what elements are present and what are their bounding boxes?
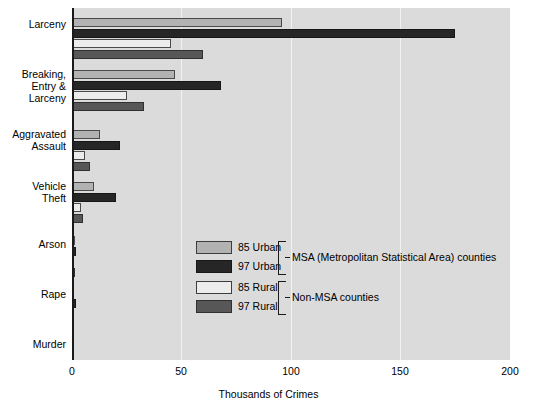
legend-swatch-85-rural (196, 281, 232, 294)
category-label-vehicle-theft: Vehicle Theft (0, 180, 66, 204)
bar (72, 182, 94, 191)
brace-msa-tick (285, 257, 290, 258)
legend-swatch-97-urban (196, 260, 232, 273)
bar-chart: Larceny Breaking, Entry & Larceny Aggrav… (0, 0, 537, 411)
y-axis-line (72, 8, 74, 360)
bar (72, 193, 116, 202)
category-label-line: Arson (0, 238, 66, 250)
x-axis-title: Thousands of Crimes (0, 388, 537, 400)
bar (72, 29, 455, 38)
category-label-aggravated-assault: Aggravated Assault (0, 128, 66, 152)
gridline-50 (181, 8, 182, 360)
legend: 85 Urban 97 Urban 85 Rural 97 Rural MSA … (196, 240, 516, 320)
category-label-line: Rape (0, 288, 66, 300)
category-label-line: Entry & (0, 80, 66, 92)
xtick-0: 0 (52, 365, 92, 377)
xtick-100: 100 (271, 365, 311, 377)
bar (72, 70, 175, 79)
category-label-arson: Arson (0, 238, 66, 250)
xtick-200: 200 (490, 365, 530, 377)
bar (72, 162, 90, 171)
legend-swatch-97-rural (196, 300, 232, 313)
bar (72, 102, 144, 111)
category-label-line: Vehicle (0, 180, 66, 192)
legend-group-label-msa: MSA (Metropolitan Statistical Area) coun… (292, 251, 496, 263)
category-label-line: Assault (0, 140, 66, 152)
legend-group-label-non-msa: Non-MSA counties (292, 291, 379, 303)
legend-label-97-urban: 97 Urban (238, 260, 281, 272)
category-label-line: Larceny (0, 92, 66, 104)
category-label-line: Larceny (0, 18, 66, 30)
bar (72, 39, 171, 48)
brace-non-msa-tick (285, 297, 290, 298)
xtick-150: 150 (380, 365, 420, 377)
bar (72, 18, 282, 27)
bar (72, 50, 203, 59)
legend-swatch-85-urban (196, 241, 232, 254)
category-label-line: Theft (0, 192, 66, 204)
category-label-line: Murder (0, 338, 66, 350)
category-label-murder: Murder (0, 338, 66, 350)
legend-label-97-rural: 97 Rural (238, 300, 278, 312)
category-label-rape: Rape (0, 288, 66, 300)
xtick-50: 50 (161, 365, 201, 377)
category-label-breaking-entry-larceny: Breaking, Entry & Larceny (0, 68, 66, 104)
legend-label-85-urban: 85 Urban (238, 241, 281, 253)
bar (72, 130, 100, 139)
legend-label-85-rural: 85 Rural (238, 281, 278, 293)
category-label-larceny: Larceny (0, 18, 66, 30)
bar (72, 81, 221, 90)
category-label-line: Breaking, (0, 68, 66, 80)
bar (72, 141, 120, 150)
category-label-line: Aggravated (0, 128, 66, 140)
bar (72, 91, 127, 100)
